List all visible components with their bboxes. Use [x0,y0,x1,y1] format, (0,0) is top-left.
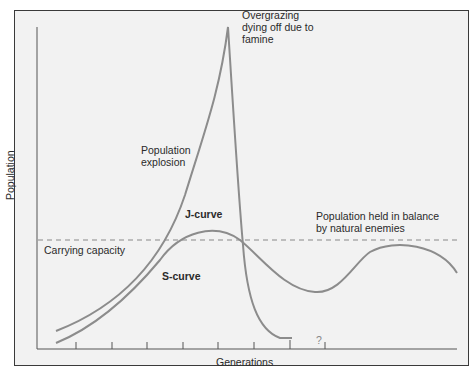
carrying-capacity-label: Carrying capacity [44,244,125,256]
question-mark: ? [316,334,322,346]
balance-annotation: Population held in balance by natural en… [316,210,439,234]
j-curve-line [56,27,292,338]
x-axis-label: Generations [216,356,273,368]
population-explosion-annotation: Population explosion [141,144,191,168]
s-curve-label: S-curve [162,270,201,282]
j-curve-label: J-curve [185,208,222,220]
overgrazing-annotation: Overgrazing dying off due to famine [242,9,314,45]
population-growth-diagram [0,0,476,383]
x-axis-ticks [76,340,325,349]
y-axis-label: Population [4,150,16,200]
